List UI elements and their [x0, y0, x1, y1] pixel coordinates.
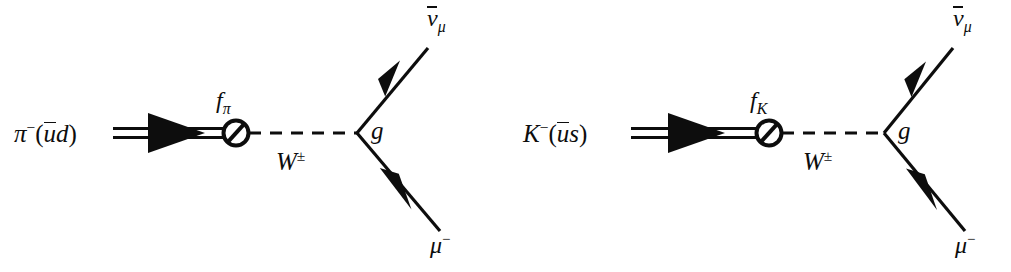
label-w-boson: W±: [276, 148, 305, 174]
decay-constant-subscript: π: [223, 100, 231, 117]
antineutrino-line: [884, 48, 953, 133]
label-w-boson: W±: [803, 148, 832, 174]
meson-antiquark: u: [44, 120, 57, 146]
label-initial-meson: K−(us): [523, 120, 587, 146]
decay-constant-symbol: f: [750, 87, 757, 113]
w-boson-charge: ±: [297, 147, 306, 164]
label-decay-constant: fπ: [216, 88, 231, 117]
w-boson-symbol: W: [803, 148, 824, 175]
label-coupling-constant: g: [898, 118, 911, 143]
antineutrino-symbol: ν: [427, 5, 438, 30]
feynman-figure: π−(ud) fπ W± g νμ μ−: [0, 0, 1011, 272]
antineutrino-arrowhead: [904, 62, 926, 98]
muon-arrowhead: [380, 168, 412, 210]
meson-paren-close: ): [69, 120, 77, 147]
meson-charge: −: [27, 119, 36, 136]
diagram-pion-leptonic-decay: π−(ud) fπ W± g νμ μ−: [0, 0, 505, 272]
meson-antiquark: u: [557, 120, 570, 146]
meson-paren-close: ): [579, 120, 587, 147]
muon-symbol: μ: [955, 232, 967, 258]
muon-symbol: μ: [430, 232, 442, 258]
w-boson-charge: ±: [824, 147, 833, 164]
label-coupling-constant: g: [371, 118, 384, 143]
meson-quark: d: [56, 120, 69, 147]
meson-paren-open: (: [548, 120, 556, 147]
label-antineutrino: νμ: [427, 5, 446, 35]
antineutrino-arrowhead: [378, 60, 400, 96]
meson-direction-arrowhead: [148, 113, 205, 153]
label-decay-constant: fK: [750, 88, 767, 117]
label-muon: μ−: [430, 232, 450, 257]
antineutrino-flavor: μ: [964, 18, 972, 35]
meson-paren-open: (: [35, 120, 43, 147]
muon-charge: −: [442, 231, 450, 247]
meson-symbol: K: [523, 120, 540, 147]
label-initial-meson: π−(ud): [14, 120, 77, 146]
w-boson-symbol: W: [276, 148, 297, 175]
label-muon: μ−: [955, 232, 975, 257]
decay-constant-subscript: K: [757, 100, 768, 117]
meson-direction-arrowhead: [668, 113, 725, 153]
diagram-kaon-leptonic-decay: K−(us) fK W± g νμ μ−: [505, 0, 1011, 272]
muon-charge: −: [967, 231, 975, 247]
meson-symbol: π: [14, 120, 27, 147]
decay-constant-symbol: f: [216, 87, 223, 113]
label-antineutrino: νμ: [953, 5, 972, 35]
antineutrino-line: [357, 48, 428, 133]
antineutrino-flavor: μ: [438, 18, 446, 35]
antineutrino-symbol: ν: [953, 5, 964, 30]
meson-quark: s: [569, 120, 579, 147]
